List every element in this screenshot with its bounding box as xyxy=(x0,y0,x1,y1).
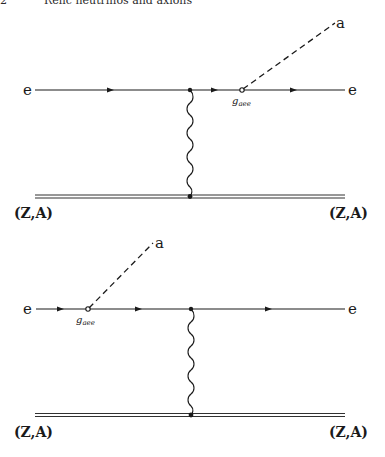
arrow-icon xyxy=(265,307,272,312)
label-coupling: gaee xyxy=(232,95,251,108)
photon-line xyxy=(187,90,193,196)
label-e-in: e xyxy=(23,300,32,318)
label-axion: a xyxy=(155,234,164,252)
label-e-out: e xyxy=(348,300,357,318)
label-coupling: gaee xyxy=(76,314,95,327)
axion-line xyxy=(89,243,153,308)
vertex-nucleus xyxy=(189,413,194,418)
arrow-icon xyxy=(135,307,142,312)
arrow-icon xyxy=(290,88,297,93)
label-e-out: e xyxy=(348,81,357,99)
photon-line xyxy=(188,309,194,415)
feynman-diagrams: e e a gaee (Z,A) (Z,A) e e a gaee (Z,A) … xyxy=(0,0,385,457)
label-nucleus-out: (Z,A) xyxy=(329,424,368,440)
arrow-icon xyxy=(211,88,218,93)
arrow-icon xyxy=(57,307,64,312)
label-nucleus-in: (Z,A) xyxy=(14,205,53,221)
label-axion: a xyxy=(336,14,345,32)
label-e-in: e xyxy=(23,81,32,99)
label-nucleus-in: (Z,A) xyxy=(14,424,53,440)
diagram-1: e e a gaee (Z,A) (Z,A) xyxy=(14,14,368,221)
arrow-icon xyxy=(107,88,114,93)
vertex-nucleus xyxy=(188,194,193,199)
diagram-2: e e a gaee (Z,A) (Z,A) xyxy=(14,234,368,440)
axion-line xyxy=(243,23,335,89)
label-nucleus-out: (Z,A) xyxy=(329,205,368,221)
